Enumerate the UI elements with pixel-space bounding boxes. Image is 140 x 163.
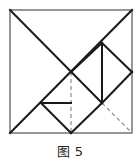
figure-page: 图 5 [0, 0, 140, 163]
figure-caption: 图 5 [0, 140, 140, 163]
tangram-figure [0, 0, 140, 140]
